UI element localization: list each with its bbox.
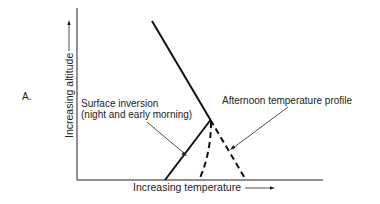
afternoon-profile-pointer: [233, 107, 288, 148]
afternoon-profile-label: Afternoon temperature profile: [222, 95, 352, 106]
afternoon-profile-pointer-head-icon: [230, 145, 236, 150]
surface-inversion-pointer: [147, 122, 185, 154]
x-axis-label: Increasing temperature: [133, 182, 241, 193]
transition-profile-curve: [199, 122, 211, 180]
surface-inversion-line: [165, 120, 211, 180]
afternoon-profile-line: [211, 120, 247, 180]
y-axis-arrowhead-icon: [67, 20, 70, 25]
x-axis-arrowhead-icon: [270, 186, 275, 189]
surface-inversion-label-line1: Surface inversion: [81, 98, 192, 109]
surface-inversion-label-line2: (night and early morning): [81, 109, 192, 120]
y-axis-label: Increasing altitude: [64, 53, 75, 138]
surface-inversion-label: Surface inversion (night and early morni…: [81, 98, 192, 120]
panel-label: A.: [22, 91, 31, 102]
